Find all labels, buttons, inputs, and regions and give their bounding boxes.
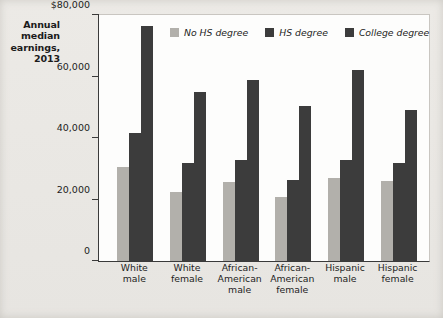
y-axis-tick-label: 40,000 xyxy=(57,122,90,133)
bar[interactable] xyxy=(170,192,182,261)
bar[interactable] xyxy=(117,167,129,261)
bar-group xyxy=(275,15,311,261)
x-axis-labels: WhitemaleWhitefemaleAfrican-Americanmale… xyxy=(98,263,428,295)
bar[interactable] xyxy=(275,197,287,261)
legend-item[interactable]: College degree xyxy=(345,27,429,38)
x-axis-label-line: White xyxy=(173,262,200,273)
y-axis-title-line-2: median xyxy=(21,30,60,41)
bar[interactable] xyxy=(393,163,405,261)
y-axis-title-line-3: earnings, xyxy=(11,42,61,53)
bar-group xyxy=(117,15,153,261)
bar-group xyxy=(170,15,206,261)
x-axis-label: Whitefemale xyxy=(161,263,213,295)
x-axis-label-line: male xyxy=(123,273,146,284)
legend-label: College degree xyxy=(359,27,429,38)
y-axis-tick xyxy=(92,260,99,261)
x-axis-label-line: American xyxy=(270,273,314,284)
y-axis-title-line-1: Annual xyxy=(23,19,60,30)
bar[interactable] xyxy=(352,70,364,261)
bar[interactable] xyxy=(141,26,153,261)
x-axis-label-line: female xyxy=(171,273,203,284)
legend-item[interactable]: No HS degree xyxy=(170,27,248,38)
x-axis-label-line: White xyxy=(121,262,148,273)
x-axis-label: African-Americanmale xyxy=(214,263,266,295)
y-axis-title: Annual median earnings, 2013 xyxy=(2,19,60,65)
y-axis-tick xyxy=(92,14,99,15)
bar[interactable] xyxy=(129,133,141,261)
bar[interactable] xyxy=(340,160,352,261)
bar-groups xyxy=(99,15,429,261)
y-axis-tick-label: 60,000 xyxy=(57,60,90,71)
bar[interactable] xyxy=(194,92,206,261)
x-axis-label-line: American xyxy=(218,273,262,284)
legend-label: HS degree xyxy=(279,27,328,38)
x-axis-label-line: Hispanic xyxy=(325,262,365,273)
bar[interactable] xyxy=(381,181,393,261)
x-axis-label: African-Americanfemale xyxy=(266,263,318,295)
y-axis-tick xyxy=(92,76,99,77)
x-axis-label-line: Hispanic xyxy=(378,262,418,273)
y-axis-tick-label: $80,000 xyxy=(51,0,90,10)
bar[interactable] xyxy=(223,182,235,261)
legend-swatch-icon xyxy=(345,28,354,37)
bar-group xyxy=(381,15,417,261)
bar[interactable] xyxy=(235,160,247,261)
bar[interactable] xyxy=(287,180,299,261)
chart-figure: Annual median earnings, 2013 020,00040,0… xyxy=(0,0,443,318)
legend-swatch-icon xyxy=(265,28,274,37)
bar[interactable] xyxy=(299,106,311,261)
chart-legend: No HS degreeHS degreeCollege degree xyxy=(170,27,429,38)
x-axis-label-line: African- xyxy=(274,262,310,273)
legend-swatch-icon xyxy=(170,28,179,37)
x-axis-label-line: male xyxy=(228,284,251,295)
bar[interactable] xyxy=(182,163,194,261)
x-axis-label-line: female xyxy=(382,273,414,284)
x-axis-label-line: female xyxy=(276,284,308,295)
x-axis-label-line: male xyxy=(333,273,356,284)
bar[interactable] xyxy=(405,110,417,261)
x-axis-label: Whitemale xyxy=(108,263,160,295)
y-axis-tick-label: 0 xyxy=(84,245,90,256)
bar-group xyxy=(328,15,364,261)
x-axis-label: Hispanicmale xyxy=(319,263,371,295)
x-axis-label-line: African- xyxy=(222,262,258,273)
plot-inner: 020,00040,00060,000$80,000 xyxy=(99,15,429,261)
y-axis-tick xyxy=(92,137,99,138)
bar-group xyxy=(223,15,259,261)
bar[interactable] xyxy=(247,80,259,261)
legend-label: No HS degree xyxy=(184,27,248,38)
x-axis-label: Hispanicfemale xyxy=(372,263,424,295)
bar[interactable] xyxy=(328,178,340,261)
legend-item[interactable]: HS degree xyxy=(265,27,328,38)
plot-area: 020,00040,00060,000$80,000 xyxy=(98,14,430,262)
y-axis-tick-label: 20,000 xyxy=(57,183,90,194)
y-axis-tick xyxy=(92,199,99,200)
